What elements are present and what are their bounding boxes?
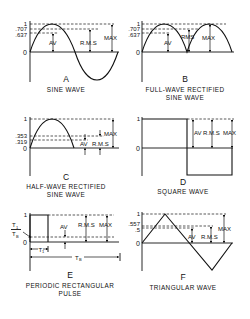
- tick-1: 1: [137, 211, 141, 217]
- max-label: MAX: [202, 35, 215, 41]
- triangle-curve: [142, 214, 232, 270]
- max-label: MAX: [99, 222, 112, 228]
- max-label: MAX: [104, 35, 117, 41]
- panel-title-line-1: HALF-WAVE RECTIFIED: [26, 183, 106, 190]
- panel-letter: F: [180, 272, 185, 282]
- tick-0: 0: [136, 49, 140, 56]
- tb-label-sub: B: [79, 257, 82, 262]
- tick-1: 1: [137, 116, 141, 122]
- av-label: AV: [188, 234, 196, 240]
- t1-label-sub: 1: [42, 249, 45, 254]
- rms-label: R.M.S: [80, 40, 97, 46]
- svg-text:1: 1: [16, 225, 19, 230]
- panel-title-line-2: SINE WAVE: [166, 94, 204, 101]
- tick-1: 1: [24, 116, 28, 122]
- panel-letter: D: [180, 177, 186, 187]
- panel-title-line-2: PULSE: [59, 290, 82, 297]
- half-wave-curve: [30, 119, 74, 148]
- av-label: AV: [164, 40, 172, 46]
- tick-0: 0: [23, 145, 27, 152]
- rms-label: R.M.S: [201, 234, 218, 240]
- max-label: MAX: [223, 130, 236, 136]
- tick-0: 0: [23, 49, 27, 56]
- rms-label: R.M.S: [203, 130, 220, 136]
- av-label: AV: [60, 224, 68, 230]
- panel-letter: C: [63, 172, 69, 182]
- panel-c-half-wave-rectified: 1 .353 .319 0 AV R.M.S MAX C HALF-WAVE R…: [15, 116, 119, 198]
- tick-0: 0: [23, 239, 27, 246]
- rms-label: R.M.S: [92, 141, 109, 147]
- square-curve: [142, 119, 232, 175]
- panel-title-line-1: PERIODIC RECTANGULAR: [26, 282, 114, 289]
- panel-f-triangular-wave: 1 .557 .5 0 AV R.M.S MAX F TRIANGULAR WA…: [128, 211, 233, 291]
- tick-1: 1: [24, 212, 28, 218]
- av-label: AV: [80, 141, 88, 147]
- panel-letter: A: [63, 74, 69, 84]
- waveform-diagram: 1 .707 .637 0 AV R.M.S MAX A SINE WAVE 1…: [0, 0, 250, 319]
- panel-title: TRIANGULAR WAVE: [149, 284, 216, 291]
- tick-5: .5: [135, 227, 141, 233]
- tick-637: .637: [128, 32, 140, 38]
- pulse-curve: [30, 215, 48, 242]
- panel-e-periodic-rectangular-pulse: 1 0 T 1 T B T 1 T B AV R.M.S MAX E PERIO…: [11, 212, 120, 297]
- panel-title: SINE WAVE: [47, 86, 85, 93]
- panel-title-line-2: SINE WAVE: [47, 191, 85, 198]
- panel-d-square-wave: 1 0 AV R.M.S MAX D SQUARE WAVE: [136, 116, 236, 196]
- panel-b-full-wave-rectified: 1 .707 .637 0 AV RMS MAX B FULL-WAVE REC…: [128, 21, 234, 101]
- tick-637: .637: [15, 32, 27, 38]
- max-label: MAX: [104, 131, 117, 137]
- panel-letter: B: [182, 74, 188, 84]
- tick-0: 0: [136, 145, 140, 152]
- panel-a-sine-wave: 1 .707 .637 0 AV R.M.S MAX A SINE WAVE: [15, 21, 119, 93]
- panel-title: SQUARE WAVE: [157, 188, 208, 196]
- svg-text:B: B: [16, 234, 19, 239]
- rms-label: RMS: [181, 34, 194, 40]
- rms-label: R.M.S: [78, 222, 95, 228]
- duty-ratio-label: T 1 T B: [11, 222, 21, 239]
- av-label: AV: [49, 40, 57, 46]
- av-label: AV: [194, 130, 202, 136]
- tick-0: 0: [136, 240, 140, 247]
- panel-letter: E: [67, 270, 73, 280]
- max-label: MAX: [218, 226, 231, 232]
- panel-title-line-1: FULL-WAVE RECTIFIED: [146, 86, 225, 93]
- ratio-pointer-arrow: [23, 232, 30, 237]
